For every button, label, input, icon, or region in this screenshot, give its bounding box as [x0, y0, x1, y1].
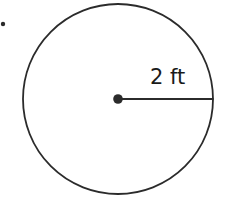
- center-point: [113, 94, 123, 104]
- list-bullet-dot: [1, 22, 5, 26]
- circle-diagram: 2 ft: [0, 0, 232, 199]
- radius-label: 2 ft: [150, 65, 185, 89]
